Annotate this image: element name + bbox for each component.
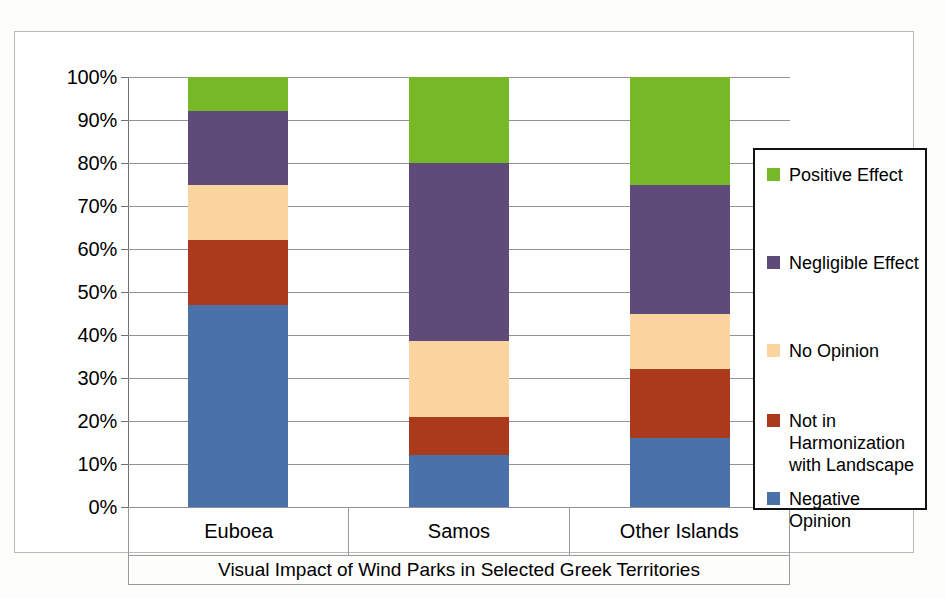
- plot-area: 0%10%20%30%40%50%60%70%80%90%100%: [128, 77, 790, 507]
- bar-segment-negative-opinion[interactable]: [188, 305, 288, 507]
- bar-segment-not-in-harmonization-with-landscape[interactable]: [188, 240, 288, 305]
- y-axis-tick-label: 60%: [78, 239, 117, 259]
- y-axis-tick: [121, 77, 128, 78]
- y-axis-tick-label: 100%: [67, 67, 117, 87]
- legend-swatch-icon: [767, 414, 780, 427]
- y-axis-tick: [121, 163, 128, 164]
- category-label-euboea: Euboea: [129, 507, 349, 555]
- bar-segment-positive-effect[interactable]: [409, 77, 509, 163]
- legend-item-positive-effect[interactable]: Positive Effect: [767, 164, 903, 186]
- y-axis-tick: [121, 120, 128, 121]
- legend-label: Positive Effect: [789, 164, 903, 186]
- bar-euboea[interactable]: [188, 77, 288, 507]
- bar-segment-negative-opinion[interactable]: [409, 455, 509, 507]
- bar-other-islands[interactable]: [630, 77, 730, 507]
- legend-label: Not in Harmonization with Landscape: [789, 410, 914, 476]
- y-axis-tick-label: 80%: [78, 153, 117, 173]
- y-axis-tick: [121, 507, 128, 508]
- chart-legend: Positive EffectNegligible EffectNo Opini…: [753, 148, 927, 510]
- category-label-row: EuboeaSamosOther Islands: [129, 507, 789, 555]
- y-axis-tick: [121, 206, 128, 207]
- legend-swatch-icon: [767, 492, 780, 505]
- y-axis-tick-label: 20%: [78, 411, 117, 431]
- category-label-other-islands: Other Islands: [570, 507, 789, 555]
- y-axis-tick-label: 50%: [78, 282, 117, 302]
- y-axis-tick: [121, 378, 128, 379]
- category-axis-table: EuboeaSamosOther Islands Visual Impact o…: [128, 507, 790, 585]
- y-axis-tick-label: 30%: [78, 368, 117, 388]
- bar-segment-negligible-effect[interactable]: [188, 111, 288, 184]
- chart-screenshot: 0%10%20%30%40%50%60%70%80%90%100% Euboea…: [0, 0, 946, 598]
- bar-segment-no-opinion[interactable]: [630, 314, 730, 370]
- chart-frame: 0%10%20%30%40%50%60%70%80%90%100% Euboea…: [14, 31, 914, 553]
- bar-segment-not-in-harmonization-with-landscape[interactable]: [409, 417, 509, 456]
- bar-segment-positive-effect[interactable]: [188, 77, 288, 111]
- legend-item-not-in-harmonization-with-landscape[interactable]: Not in Harmonization with Landscape: [767, 410, 914, 476]
- y-axis-tick-label: 90%: [78, 110, 117, 130]
- y-axis-tick: [121, 464, 128, 465]
- chart-title: Visual Impact of Wind Parks in Selected …: [218, 559, 700, 581]
- y-axis-tick-label: 40%: [78, 325, 117, 345]
- bar-samos[interactable]: [409, 77, 509, 507]
- bar-segment-negligible-effect[interactable]: [409, 163, 509, 341]
- bar-segment-positive-effect[interactable]: [630, 77, 730, 185]
- bar-segment-no-opinion[interactable]: [409, 341, 509, 416]
- y-axis-tick: [121, 292, 128, 293]
- bar-segment-not-in-harmonization-with-landscape[interactable]: [630, 369, 730, 438]
- legend-label: Negligible Effect: [789, 252, 919, 274]
- legend-swatch-icon: [767, 168, 780, 181]
- y-axis-tick: [121, 335, 128, 336]
- y-axis-tick-label: 10%: [78, 454, 117, 474]
- legend-label: Negative Opinion: [789, 488, 860, 532]
- chart-title-row: Visual Impact of Wind Parks in Selected …: [129, 555, 789, 584]
- y-axis-tick: [121, 249, 128, 250]
- bar-segment-negligible-effect[interactable]: [630, 185, 730, 314]
- legend-item-negligible-effect[interactable]: Negligible Effect: [767, 252, 919, 274]
- legend-item-negative-opinion[interactable]: Negative Opinion: [767, 488, 860, 532]
- category-label-samos: Samos: [349, 507, 569, 555]
- legend-swatch-icon: [767, 256, 780, 269]
- y-axis-tick-label: 0%: [88, 497, 117, 517]
- y-axis-tick-label: 70%: [78, 196, 117, 216]
- bar-segment-negative-opinion[interactable]: [630, 438, 730, 507]
- legend-item-no-opinion[interactable]: No Opinion: [767, 340, 879, 362]
- legend-label: No Opinion: [789, 340, 879, 362]
- y-axis-tick: [121, 421, 128, 422]
- legend-swatch-icon: [767, 344, 780, 357]
- bar-segment-no-opinion[interactable]: [188, 185, 288, 241]
